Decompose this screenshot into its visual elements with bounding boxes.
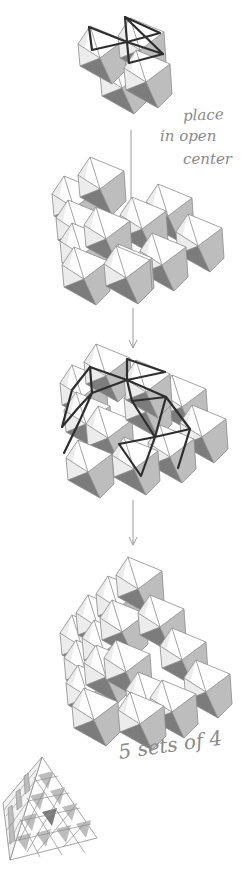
step-4-stack [60,557,232,750]
step-1-unit [78,17,172,114]
annotation-place: place [183,107,224,123]
step-5-pyramid [3,757,97,860]
step-3-assembled [60,344,228,498]
annotation-center: center [183,152,232,167]
annotation-in-open: in open [160,129,216,144]
step-2-arrangement [52,157,224,305]
arrow-down-icon [129,500,137,545]
arrow-down-icon [129,308,137,348]
